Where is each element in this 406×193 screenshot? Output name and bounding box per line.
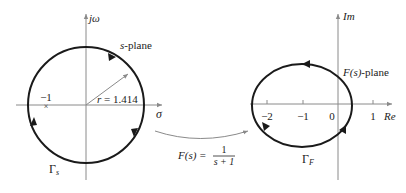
tick-label: 0 xyxy=(329,110,335,122)
mapping-function-lhs: F(s) = xyxy=(177,149,207,162)
tick-label: −1 xyxy=(297,110,309,122)
contour-arrow-icon xyxy=(302,60,310,68)
mapping-denominator: s + 1 xyxy=(214,156,235,167)
mapping-numerator: 1 xyxy=(222,144,227,155)
gamma-s-label: Γs xyxy=(49,162,59,177)
contour-arrow-icon xyxy=(262,122,270,131)
s-plane-label: s-plane xyxy=(120,39,152,51)
sigma-axis-label: σ xyxy=(156,107,163,121)
pole-x-icon: × xyxy=(44,102,49,111)
jw-axis-label: jω xyxy=(87,12,100,24)
pole-label: −1 xyxy=(40,91,52,103)
f-plane-panel: −2 −1 0 1 Im Re F(s)-plane ΓF xyxy=(250,10,396,180)
tick-label: 1 xyxy=(370,110,376,122)
mapping-arrow xyxy=(155,131,248,139)
radius-label: r = 1.414 xyxy=(97,93,138,105)
gamma-f-contour xyxy=(252,64,352,147)
s-plane-panel: × −1 jω σ s-plane r = 1.414 Γs xyxy=(16,12,163,180)
tick-label: −2 xyxy=(261,110,273,122)
mapping-arrow-group: F(s) = 1 s + 1 xyxy=(155,131,248,167)
gamma-f-label: ΓF xyxy=(302,152,314,167)
im-axis-label: Im xyxy=(342,10,355,22)
re-axis-label: Re xyxy=(383,110,396,122)
f-plane-label: F(s)-plane xyxy=(342,66,389,79)
nyquist-mapping-diagram: × −1 jω σ s-plane r = 1.414 Γs F(s) = 1 … xyxy=(0,0,406,193)
